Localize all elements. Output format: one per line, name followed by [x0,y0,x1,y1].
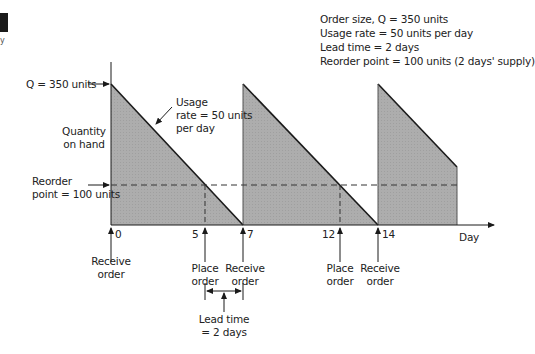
reorder-point-label: Reorder point = 100 units [32,175,120,201]
inventory-cycles [111,84,457,225]
caption-receive-7: Receive order [221,262,269,288]
q-label: Q = 350 units [26,78,96,91]
event-arrows [111,228,378,262]
tick-7: 7 [247,228,253,241]
caption-receive-14: Receive order [356,262,404,288]
tick-5: 5 [192,228,198,241]
info-line-order-size: Order size, Q = 350 units [320,13,448,26]
info-line-usage-rate: Usage rate = 50 units per day [320,27,473,40]
caption-receive-0: Receive order [87,255,135,281]
tick-12: 12 [322,228,335,241]
info-line-reorder-point: Reorder point = 100 units (2 days' suppl… [320,55,535,68]
lead-time-label: Lead time = 2 days [196,313,252,339]
x-axis-label: Day [459,231,479,244]
info-line-lead-time: Lead time = 2 days [320,41,419,54]
usage-rate-label: Usage rate = 50 units per day [176,96,252,135]
usage-arrow [156,107,172,124]
quantity-on-hand-label: Quantity on hand [60,125,108,151]
tick-0: 0 [115,228,121,241]
tick-14: 14 [382,228,395,241]
